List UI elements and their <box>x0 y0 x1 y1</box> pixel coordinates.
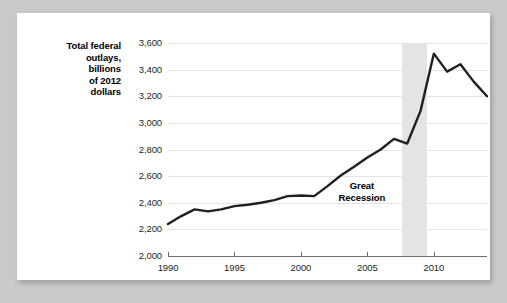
data-series-layer <box>17 13 490 280</box>
chart-plot-area: Total federal outlays, billions of 2012 … <box>17 13 490 280</box>
line-series-total-federal-outlays <box>168 54 487 224</box>
figure-card: Total federal outlays, billions of 2012 … <box>17 13 490 280</box>
